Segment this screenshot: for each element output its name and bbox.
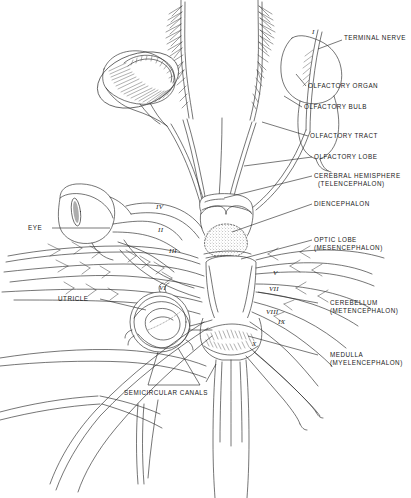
label-olfactory-tract: OLFACTORY TRACT (310, 132, 378, 140)
cranial-nerve-viii: VIII (266, 308, 278, 316)
medulla-spinal-cord (213, 360, 249, 498)
label-terminal-nerve: TERMINAL NERVE (344, 34, 406, 42)
cranial-nerve-iii: III (169, 247, 177, 255)
label-semicircular-canals: SEMICIRCULAR CANALS (124, 389, 208, 397)
cranial-nerve-ix: IX (278, 318, 285, 326)
cranial-nerve-vi: VI (159, 284, 166, 292)
label-cerebral-hemisphere-line1: CEREBRAL HEMISPHERE (314, 172, 401, 180)
label-cerebellum-line1: CEREBELLUM (330, 299, 378, 307)
label-olfactory-organ: OLFACTORY ORGAN (308, 82, 378, 90)
lateral-line-trunks (0, 322, 212, 492)
cranial-nerve-iv: IV (156, 203, 163, 211)
cerebellum (200, 318, 262, 360)
label-olfactory-bulb: OLFACTORY BULB (304, 103, 367, 111)
label-optic-lobe-line1: OPTIC LOBE (314, 236, 357, 244)
cranial-nerve-ii: II (158, 226, 163, 234)
label-olfactory-lobe: OLFACTORY LOBE (314, 153, 377, 161)
cranial-nerve-v: V (273, 269, 278, 277)
label-eye: EYE (28, 224, 42, 232)
label-diencephalon: DIENCEPHALON (314, 200, 370, 208)
label-medulla-line1: MEDULLA (330, 351, 363, 359)
labyrinth (125, 283, 212, 352)
cranial-nerve-vii: VII (269, 285, 279, 293)
right-lower-trunks (246, 348, 323, 430)
label-optic-lobe-line2: (MESENCEPHALON) (314, 244, 383, 252)
label-cerebellum-line2: (METENCEPHALON) (330, 307, 398, 315)
label-medulla-line2: (MYELENCEPHALON) (330, 359, 403, 367)
label-utricle: UTRICLE (58, 295, 88, 303)
feathered-nerve-right (250, 0, 275, 121)
diagram-canvas: .s{fill:none;stroke:#2b2b2b;stroke-width… (0, 0, 411, 498)
label-cerebral-hemisphere-line2: (TELENCEPHALON) (318, 180, 385, 188)
left-nerve-twigs (48, 242, 172, 300)
cranial-nerve-i: I (312, 28, 315, 36)
olfactory-organ-rosette (90, 42, 186, 126)
cranial-nerve-x: X (252, 340, 257, 348)
